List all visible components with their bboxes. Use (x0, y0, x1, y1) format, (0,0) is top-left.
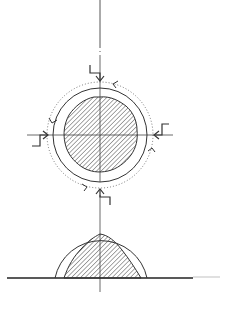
technical-drawing (0, 0, 227, 310)
hatched-core (64, 97, 137, 172)
section-marker-top (90, 65, 104, 81)
bottom-section-view (7, 234, 220, 278)
hatched-core-half (64, 234, 141, 278)
section-marker-right (154, 124, 169, 139)
section-marker-bottom (96, 189, 110, 205)
section-marker-left (32, 131, 48, 146)
